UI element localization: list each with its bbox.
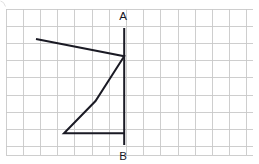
point-label-b: B <box>119 150 127 162</box>
geometry-figure-svg: A B <box>0 0 259 164</box>
figure-background <box>0 0 259 164</box>
figure-canvas: A B <box>0 0 259 164</box>
point-label-a: A <box>119 10 127 22</box>
